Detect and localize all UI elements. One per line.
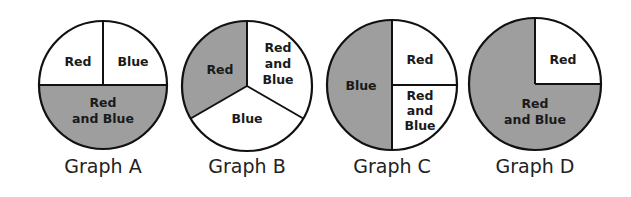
graph-b-pie: Red Red and Blue Blue [182,21,312,151]
graph-c-caption: Graph C [322,155,462,177]
graph-c-label-rab-3: Blue [404,118,435,133]
graph-b-label-blue: Blue [231,111,262,126]
graph-d-pie: Red Red and Blue [469,18,601,150]
graph-c-pie: Blue Red Red and Blue [327,20,457,150]
graph-c-label-blue: Blue [345,78,376,93]
graph-d-label-rab-1: Red [521,96,548,111]
graph-a-label-red-and-blue-2: and Blue [72,111,134,126]
graph-b-label-rab-3: Blue [262,72,293,87]
graph-b-caption: Graph B [177,155,317,177]
graph-d-label-red: Red [549,52,576,67]
graph-c-label-rab-1: Red [406,88,433,103]
graph-c-label-red: Red [406,52,433,67]
graph-d-label-rab-2: and Blue [504,112,566,127]
pie-graphs-figure: Red Blue Red and Blue Red Red and Blue B… [0,0,631,197]
graph-a-pie: Red Blue Red and Blue [39,21,167,149]
graph-a-caption: Graph A [33,155,173,177]
graph-a-label-red: Red [64,54,91,69]
graph-d-caption: Graph D [465,155,605,177]
graph-c-label-rab-2: and [407,103,433,118]
graph-a-label-blue: Blue [117,54,148,69]
graph-b-label-rab-2: and [265,56,291,71]
graph-a-label-red-and-blue-1: Red [89,95,116,110]
graph-b-label-red: Red [206,62,233,77]
graph-b-label-rab-1: Red [264,40,291,55]
